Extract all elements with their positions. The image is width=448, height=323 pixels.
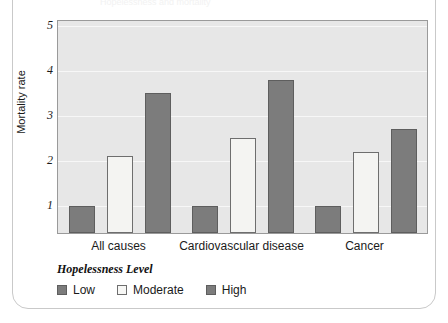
bar-high-cardiovascular-disease (268, 80, 294, 233)
chart-legend: Hopelessness Level LowModerateHigh (57, 262, 387, 297)
figure-caption-faint: Hopelessness and mortality (100, 0, 330, 8)
x-axis-label-cancer: Cancer (345, 239, 384, 253)
low-swatch-icon (57, 285, 67, 295)
x-axis-labels: All causesCardiovascular diseaseCancer (57, 239, 428, 257)
bar-moderate-cancer (353, 152, 379, 233)
gridline (58, 116, 427, 117)
plot-area (57, 20, 428, 234)
y-tick-label: 1 (31, 199, 53, 211)
legend-item-high[interactable]: High (206, 283, 247, 297)
legend-label: Low (73, 283, 95, 297)
y-tick-label: 2 (31, 154, 53, 166)
moderate-swatch-icon (117, 285, 127, 295)
bar-low-cancer (315, 206, 341, 233)
legend-items: LowModerateHigh (57, 283, 387, 297)
bar-low-all-causes (69, 206, 95, 233)
y-tick-label: 3 (31, 109, 53, 121)
bar-high-cancer (391, 129, 417, 233)
high-swatch-icon (206, 285, 216, 295)
legend-item-moderate[interactable]: Moderate (117, 283, 184, 297)
x-axis-label-cardiovascular-disease: Cardiovascular disease (179, 239, 304, 253)
y-axis-ticks: 54321 (27, 20, 53, 234)
legend-label: Moderate (133, 283, 184, 297)
bar-moderate-cardiovascular-disease (230, 138, 256, 233)
y-axis-label: Mortality rate (15, 52, 27, 152)
legend-label: High (222, 283, 247, 297)
figure-container: Hopelessness and mortality 54321 Mortali… (0, 0, 448, 323)
bar-moderate-all-causes (107, 156, 133, 233)
gridline (58, 71, 427, 72)
bar-high-all-causes (145, 93, 171, 233)
y-tick-label: 4 (31, 64, 53, 76)
x-axis-label-all-causes: All causes (91, 239, 146, 253)
gridline (58, 26, 427, 27)
legend-item-low[interactable]: Low (57, 283, 95, 297)
y-tick-label: 5 (31, 19, 53, 31)
legend-title: Hopelessness Level (57, 262, 387, 277)
bar-low-cardiovascular-disease (192, 206, 218, 233)
